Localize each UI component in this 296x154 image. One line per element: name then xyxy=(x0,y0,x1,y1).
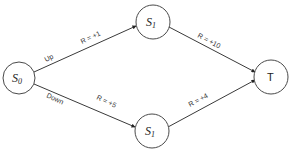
node-s1-bottom: S1 xyxy=(135,114,169,148)
node-t: T xyxy=(254,60,288,94)
node-t-label: T xyxy=(267,71,274,83)
action-label-down: Down xyxy=(46,92,65,106)
edge-s0-to-s1-top xyxy=(34,26,136,72)
edge-s1-top-to-t xyxy=(169,27,255,72)
action-label-up: Up xyxy=(43,52,55,63)
edge-s0-to-s1-bottom xyxy=(34,84,135,127)
edge-s1-bottom-to-t xyxy=(168,80,255,127)
node-s0: S0 xyxy=(3,62,35,94)
reward-label-top-to-t: R = +10 xyxy=(197,32,222,50)
node-s1-top: S1 xyxy=(136,5,170,39)
reward-label-bottom-to-t: R = +4 xyxy=(187,92,209,108)
mdp-diagram: Up R = +1 Down R = +5 R = +10 R = +4 S0 … xyxy=(0,0,296,154)
reward-label-down: R = +5 xyxy=(96,94,118,109)
